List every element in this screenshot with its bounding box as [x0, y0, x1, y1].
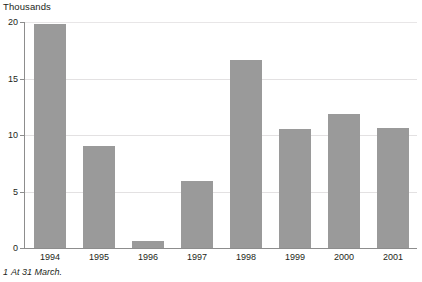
y-axis-tick-label-text: 5 [2, 188, 18, 197]
footnote-marker: 1 [3, 267, 8, 277]
bar [83, 146, 115, 248]
bar-chart-figure: Thousands 05101520 199419951996199719981… [0, 0, 422, 282]
bar [34, 24, 66, 248]
x-axis-tick-label: 2001 [369, 252, 417, 262]
bar [279, 129, 311, 248]
x-axis-tick-label: 1994 [26, 252, 74, 262]
x-axis-tick-label: 1996 [124, 252, 172, 262]
bar [328, 114, 360, 248]
y-axis-tick-label-text: 10 [2, 131, 18, 140]
bar [181, 181, 213, 248]
x-axis-tick-label: 1999 [271, 252, 319, 262]
y-axis-tick-label: 5 [0, 188, 18, 197]
chart-unit-label: Thousands [3, 1, 51, 12]
chart-footnote: 1At 31 March. [3, 267, 62, 278]
bar [377, 128, 409, 248]
y-axis-tick-label-text: 20 [2, 18, 18, 27]
x-axis-tick-label: 1998 [222, 252, 270, 262]
y-axis-tick-label: 15 [0, 75, 18, 84]
x-axis-tick-label: 1995 [75, 252, 123, 262]
plot-area [25, 22, 417, 248]
y-axis-tick-label: 20 [0, 18, 18, 27]
y-axis-tick-label-text: 15 [2, 75, 18, 84]
y-axis-tick [20, 248, 25, 249]
footnote-text: At 31 March. [11, 267, 62, 277]
y-axis-tick-label-text: 0 [2, 244, 18, 253]
x-axis-tick-label: 2000 [320, 252, 368, 262]
bar [230, 60, 262, 248]
bar [132, 241, 164, 248]
x-axis-line [24, 248, 417, 249]
x-axis-tick-label: 1997 [173, 252, 221, 262]
y-axis-tick-label: 0 [0, 244, 18, 253]
y-axis-tick-label: 10 [0, 131, 18, 140]
